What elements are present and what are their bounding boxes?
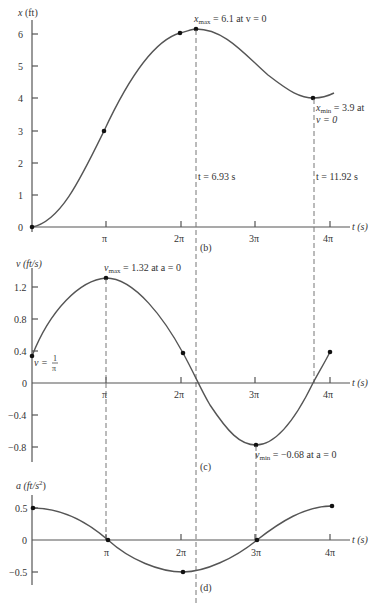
xtick-label: 2π xyxy=(174,389,184,400)
ytick-label: 4 xyxy=(18,93,23,104)
y-axis-label: a (ft/s2) xyxy=(16,479,46,492)
xtick-label: 3π xyxy=(251,547,261,558)
xtick-label: 4π xyxy=(323,233,333,244)
xtick-label: 3π xyxy=(249,233,259,244)
x-ticks xyxy=(106,377,330,383)
panel-label: (c) xyxy=(200,461,211,473)
ytick-label: 3 xyxy=(18,126,23,137)
ytick-label: −0.5 xyxy=(9,567,27,578)
xmax-annotation: xmax = 6.1 at v = 0 xyxy=(193,13,267,26)
y-axis-label: v (ft/s) xyxy=(16,258,42,270)
ytick-label: 6 xyxy=(18,29,23,40)
ytick-label: 1.2 xyxy=(14,282,27,293)
data-point xyxy=(102,129,107,134)
xtick-label: 2π xyxy=(174,233,184,244)
ytick-label: 0.4 xyxy=(14,346,27,357)
x-axis-label: t (s) xyxy=(352,534,369,546)
x-ticks xyxy=(106,221,330,227)
x-axis-label: t (s) xyxy=(352,221,369,233)
xmin-annotation-line2: v = 0 xyxy=(316,114,337,125)
data-point xyxy=(330,504,335,509)
x-axis-label: t (s) xyxy=(352,377,369,389)
xtick-label: 4π xyxy=(323,389,333,400)
data-point xyxy=(328,350,333,355)
vmin-annotation: vmin = −0.68 at a = 0 xyxy=(255,449,336,462)
data-point xyxy=(178,31,183,36)
velocity-curve xyxy=(32,278,330,445)
motion-graphs: 6 5 4 3 2 1 0 x (ft) π 2π 3π 4π t (s) (b… xyxy=(0,0,386,606)
ytick-label: 0.8 xyxy=(14,314,27,325)
ytick-label: −0.4 xyxy=(8,410,26,421)
position-curve xyxy=(32,29,334,227)
acceleration-chart: 0.5 0 −0.5 a (ft/s2) π 2π 3π 4π t (s) (d… xyxy=(9,479,369,594)
xtick-label: π xyxy=(104,547,109,558)
ytick-label: 0 xyxy=(18,222,23,233)
xtick-label: 2π xyxy=(176,547,186,558)
ytick-label: −0.8 xyxy=(8,442,26,453)
ytick-label: 5 xyxy=(18,61,23,72)
data-point xyxy=(106,538,111,543)
panel-label: (b) xyxy=(200,242,212,254)
svg-text:1: 1 xyxy=(53,354,57,363)
panel-label: (d) xyxy=(200,582,212,594)
ytick-label: 1 xyxy=(18,190,23,201)
vmax-annotation: vmax = 1.32 at a = 0 xyxy=(104,262,181,275)
data-point xyxy=(31,506,36,511)
ytick-label: 0 xyxy=(22,535,27,546)
ytick-label: 0.5 xyxy=(15,503,28,514)
xtick-label: 4π xyxy=(325,547,335,558)
t1-annotation: t = 6.93 s xyxy=(198,171,235,182)
data-point xyxy=(181,351,186,356)
x-ticks xyxy=(106,534,330,540)
ytick-label: 2 xyxy=(18,158,23,169)
y-ticks xyxy=(32,34,38,195)
svg-text:v =: v = xyxy=(34,357,48,368)
v0-annotation: v = 1 π xyxy=(34,354,58,373)
xmin-point xyxy=(311,96,316,101)
y-axis-label: x (ft) xyxy=(17,7,38,19)
data-point xyxy=(181,570,186,575)
data-point xyxy=(255,538,260,543)
data-point xyxy=(30,225,35,230)
xtick-label: π xyxy=(102,233,107,244)
acceleration-curve xyxy=(33,506,332,572)
svg-text:π: π xyxy=(52,364,56,373)
ytick-label: 0 xyxy=(22,378,27,389)
xtick-label: 3π xyxy=(249,389,259,400)
t2-annotation: t = 11.92 s xyxy=(316,171,358,182)
